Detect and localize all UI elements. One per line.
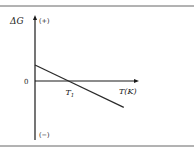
x-intercept-label-subscript: 1 bbox=[71, 92, 75, 98]
origin-label: 0 bbox=[24, 78, 28, 86]
y-axis-arrow-icon bbox=[33, 15, 37, 20]
series-layer bbox=[35, 65, 124, 107]
x-axis-arrow-icon bbox=[134, 79, 139, 83]
series-line bbox=[35, 65, 124, 107]
x-axis-label: T(K) bbox=[119, 87, 137, 96]
y-positive-label: (+) bbox=[39, 17, 50, 25]
delta-g-vs-temperature-diagram: ΔG (+) (−) 0 T(K) T1 bbox=[0, 0, 194, 152]
y-axis-label: ΔG bbox=[9, 16, 24, 26]
y-negative-label: (−) bbox=[39, 131, 50, 139]
x-intercept-label: T1 bbox=[66, 88, 75, 98]
